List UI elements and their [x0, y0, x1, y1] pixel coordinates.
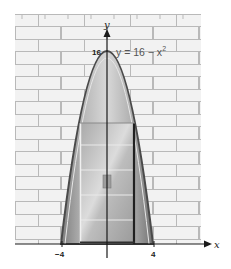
equation-exponent: 2	[162, 45, 166, 52]
equation-text: y = 16 − x	[116, 46, 163, 58]
x-tick-label-4: 4	[151, 250, 156, 259]
svg-text:y = 16 − x2: y = 16 − x2	[116, 45, 166, 58]
parabolic-arch-diagram: y x 16 −4 4 y = 16 − x2	[0, 0, 231, 269]
equation-label: y = 16 − x2	[116, 45, 166, 58]
x-axis-label: x	[214, 239, 220, 250]
x-tick-label-neg4: −4	[55, 250, 65, 259]
y-axis-label: y	[103, 19, 110, 30]
y-tick-label-16: 16	[92, 48, 101, 57]
x-axis-arrow-icon	[204, 241, 212, 248]
